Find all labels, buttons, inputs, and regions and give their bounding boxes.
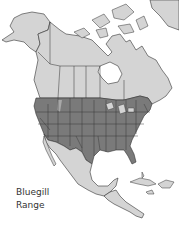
- legend-label-line2: Range: [16, 199, 49, 212]
- legend-label-line1: Bluegill: [16, 186, 49, 199]
- bluegill-range-label: Bluegill Range: [16, 186, 49, 212]
- central-america-region: [104, 190, 144, 218]
- bluegill-range-us: [34, 96, 152, 164]
- greenland-region: [150, 0, 179, 30]
- arctic-islands: [74, 4, 148, 38]
- caribbean-islands: [130, 172, 174, 194]
